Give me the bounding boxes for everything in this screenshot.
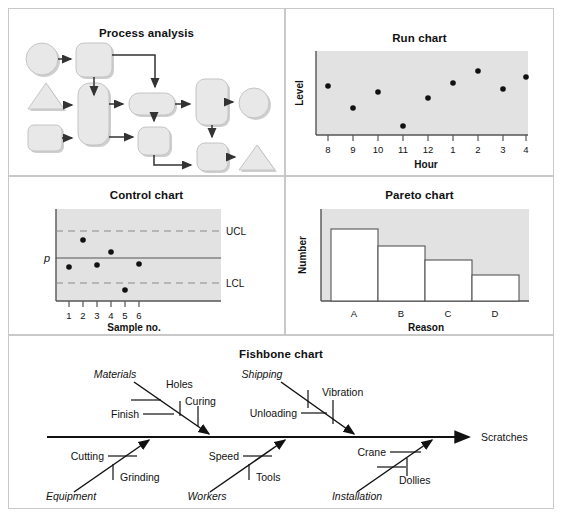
control-point: [94, 262, 100, 268]
flow-node-box-1: [76, 43, 112, 77]
pareto-bar: [331, 229, 378, 301]
flow-node-box-3: [138, 127, 170, 155]
run-point: [475, 68, 481, 74]
panel-title-fishbone-chart: Fishbone chart: [9, 348, 553, 360]
panel-run-chart: Run chart: [285, 8, 554, 176]
panel-pareto-chart: Pareto chart A B C D Reason Number: [285, 176, 554, 335]
svg-text:4: 4: [523, 144, 528, 155]
svg-text:11: 11: [398, 144, 408, 155]
fishbone-cause-cutting: Cutting: [71, 450, 104, 462]
run-x-tick-labels: 8 9 10 11 12 1 2 3 4: [325, 144, 528, 155]
run-point: [500, 86, 506, 92]
panel-title-run-chart: Run chart: [286, 32, 553, 44]
control-point: [108, 249, 114, 255]
svg-text:12: 12: [423, 144, 434, 155]
control-chart-plot: UCL LCL p 1 2 3: [9, 205, 284, 330]
lcl-label: LCL: [226, 278, 245, 289]
flow-node-triangle-2: [239, 145, 275, 170]
svg-text:1: 1: [66, 310, 71, 321]
svg-text:3: 3: [500, 144, 505, 155]
pareto-bar: [378, 246, 425, 301]
flow-shapes: [26, 43, 277, 173]
fishbone-cause-unloading: Unloading: [250, 407, 297, 419]
run-point: [325, 83, 331, 89]
fishbone-cause-finish: Finish: [111, 408, 139, 420]
control-x-tick-labels: 1 2 3 4 5 6: [66, 310, 141, 321]
svg-text:4: 4: [108, 310, 113, 321]
control-point: [122, 287, 128, 293]
figure-quality-tools: Process analysis: [0, 0, 562, 530]
svg-text:5: 5: [122, 310, 127, 321]
flow-node-box-2: [28, 125, 62, 151]
fishbone-cause-grinding: Grinding: [120, 471, 160, 483]
svg-text:8: 8: [325, 144, 330, 155]
fishbone-cause-vibration: Vibration: [322, 386, 363, 398]
svg-text:A: A: [351, 308, 358, 319]
svg-text:1: 1: [450, 144, 455, 155]
fishbone-category-shipping: Shipping: [242, 368, 283, 380]
control-x-axis-title: Sample no.: [107, 322, 161, 333]
bone-workers: [210, 440, 285, 492]
run-point: [350, 105, 356, 111]
run-point: [400, 123, 406, 129]
pareto-bar: [425, 260, 472, 301]
pareto-x-axis-title: Reason: [408, 322, 444, 333]
center-line-label: p: [43, 252, 50, 264]
fishbone-category-materials: Materials: [94, 368, 137, 380]
fishbone-cause-crane: Crane: [357, 446, 386, 458]
fishbone-cause-speed: Speed: [209, 450, 240, 462]
control-point: [80, 237, 86, 243]
ucl-label: UCL: [226, 226, 246, 237]
run-x-axis-title: Hour: [414, 159, 437, 170]
fishbone-cause-curing: Curing: [185, 395, 216, 407]
svg-text:C: C: [445, 308, 452, 319]
process-flowchart: [9, 41, 284, 176]
panel-control-chart: Control chart UCL LCL p: [8, 176, 285, 335]
flow-node-triangle-1: [28, 83, 64, 109]
bone-equipment: [74, 440, 149, 492]
fishbone-category-workers: Workers: [187, 490, 227, 502]
svg-text:2: 2: [475, 144, 480, 155]
svg-text:D: D: [492, 308, 499, 319]
fishbone-cause-holes: Holes: [166, 378, 193, 390]
fishbone-cause-tools: Tools: [256, 471, 281, 483]
svg-text:B: B: [398, 308, 404, 319]
flow-node-box-4: [197, 143, 228, 171]
svg-text:2: 2: [80, 310, 85, 321]
panel-process-analysis: Process analysis: [8, 8, 285, 176]
svg-text:10: 10: [373, 144, 384, 155]
run-x-ticks: [328, 135, 526, 141]
svg-text:9: 9: [350, 144, 355, 155]
run-point: [375, 89, 381, 95]
fishbone-effect-label: Scratches: [481, 431, 528, 443]
flow-node-box-tall-2: [196, 79, 228, 125]
fishbone-cause-dollies: Dollies: [399, 474, 431, 486]
run-point: [450, 80, 456, 86]
pareto-chart-plot: A B C D Reason Number: [286, 205, 553, 333]
flow-node-box-wide: [129, 93, 175, 115]
panel-title-control-chart: Control chart: [9, 189, 284, 201]
svg-text:6: 6: [136, 310, 141, 321]
panel-title-process-analysis: Process analysis: [9, 27, 284, 39]
flow-node-circle-start: [26, 43, 58, 75]
pareto-bar: [472, 275, 519, 301]
run-point: [425, 95, 431, 101]
control-point: [136, 261, 142, 267]
pareto-y-axis-title: Number: [297, 236, 308, 274]
control-plot-background: [56, 209, 221, 301]
pareto-x-tick-labels: A B C D: [351, 308, 499, 319]
panel-title-pareto-chart: Pareto chart: [286, 189, 553, 201]
fishbone-diagram: Scratches Materials Holes Curing Finish …: [9, 364, 553, 506]
control-point: [66, 264, 72, 270]
run-y-axis-title: Level: [294, 80, 305, 106]
run-plot-background: [316, 51, 528, 135]
flow-node-circle-end: [239, 88, 269, 118]
fishbone-category-equipment: Equipment: [46, 490, 97, 502]
svg-text:3: 3: [94, 310, 99, 321]
fishbone-category-installation: Installation: [332, 490, 382, 502]
run-point: [523, 74, 529, 80]
control-x-ticks: [69, 301, 139, 307]
panel-fishbone-chart: Fishbone chart Scratches Materials Holes…: [8, 335, 554, 509]
run-chart-plot: 8 9 10 11 12 1 2 3 4 Hour Level: [286, 47, 553, 173]
